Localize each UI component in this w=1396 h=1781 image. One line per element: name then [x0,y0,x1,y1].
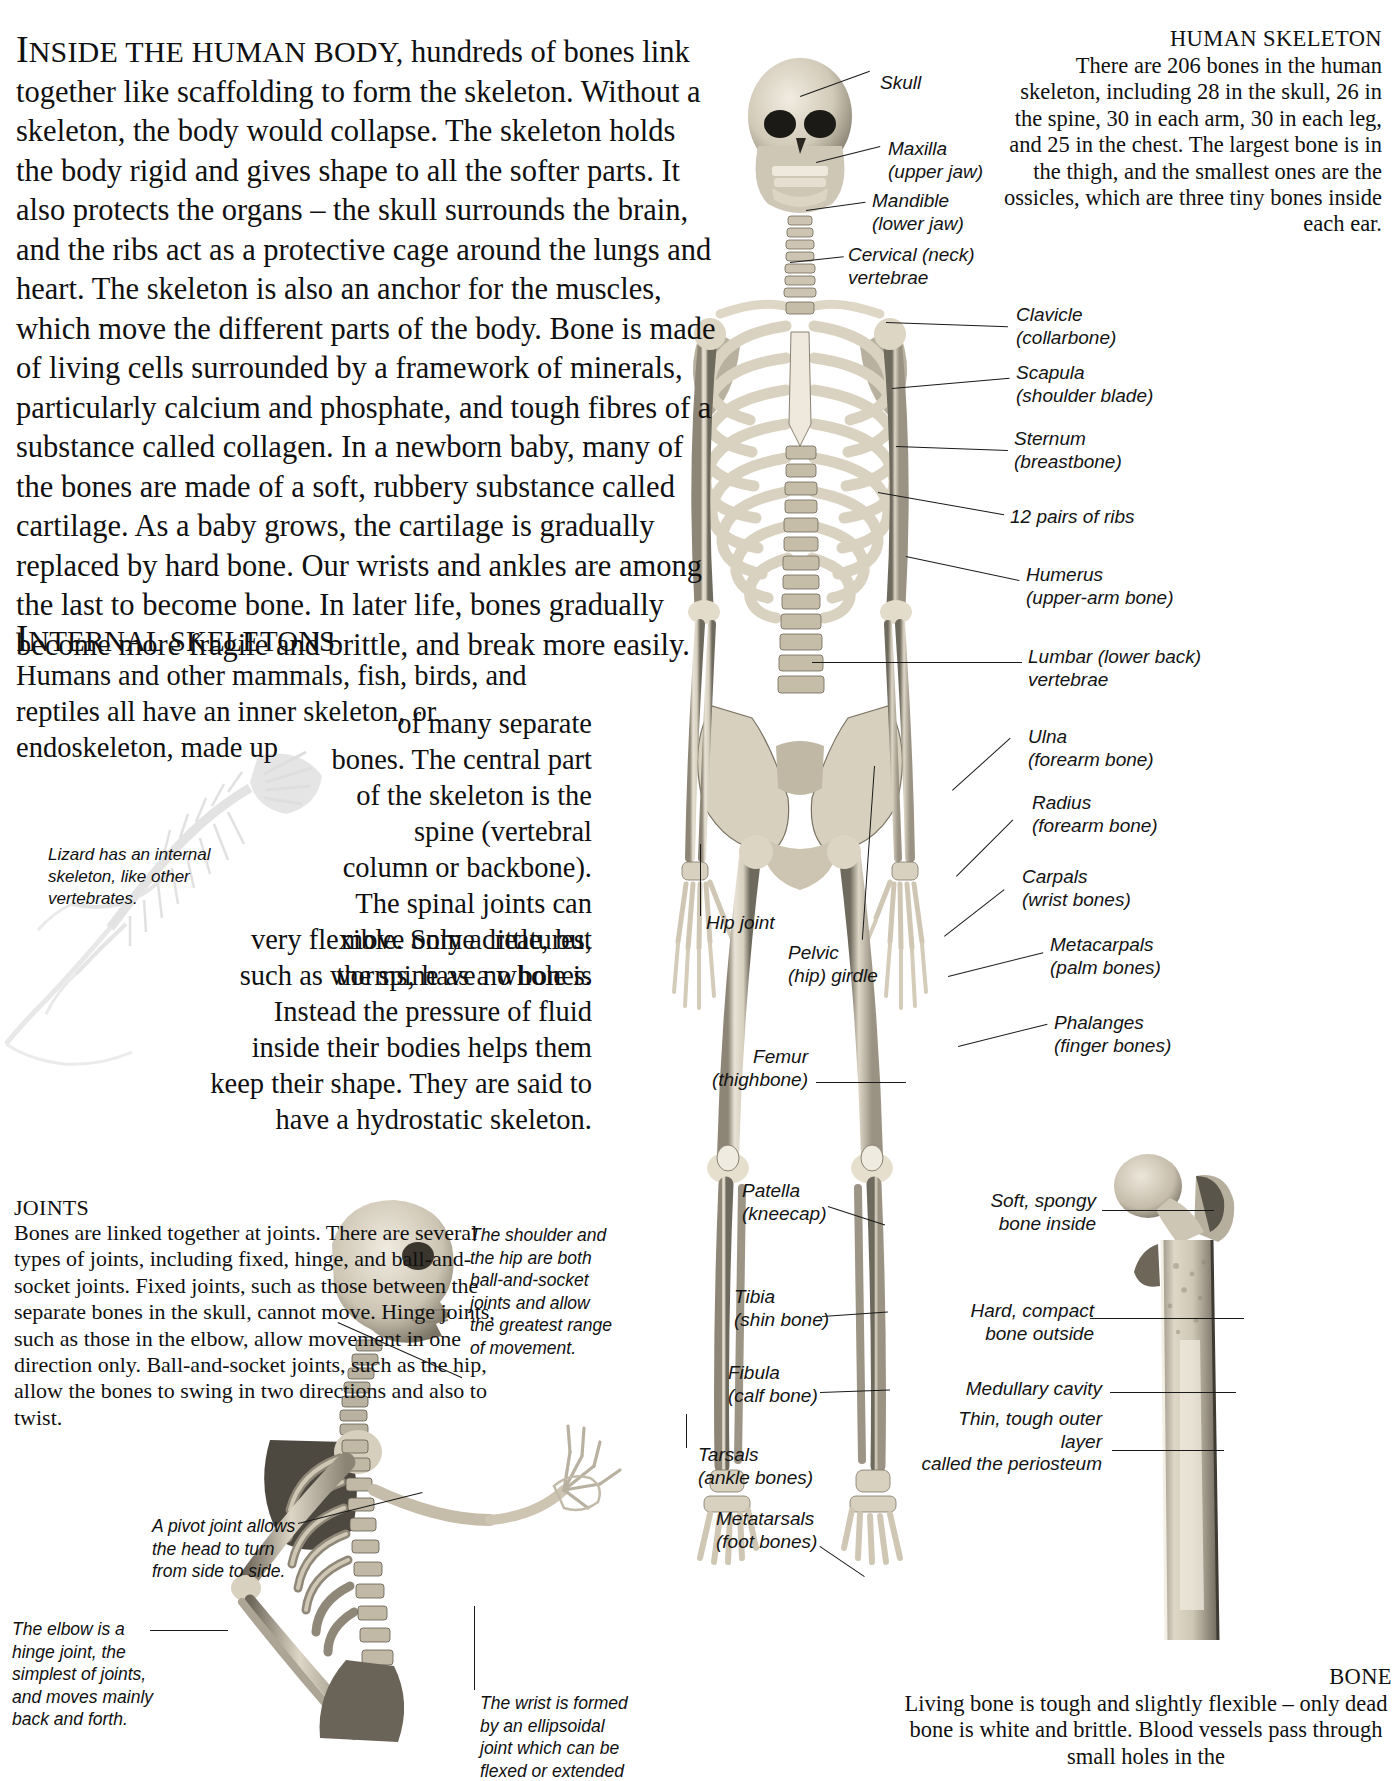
label-phalanges: Phalanges (finger bones) [1054,1012,1171,1057]
leader-line-elbow [150,1630,228,1631]
intro-body-text: hundreds of bones link together like sca… [16,35,716,662]
label-scapula: Scapula (shoulder blade) [1016,362,1153,407]
intro-paragraph: INSIDE THE HUMAN BODY, hundreds of bones… [16,30,716,665]
label-metatarsals: Metatarsals (foot bones) [716,1508,817,1553]
label-sternum: Sternum (breastbone) [1014,428,1122,473]
leader-line-lumbar [812,662,1022,663]
femur-cross-section-illustration [1100,1140,1260,1660]
bone-panel: BONE Living bone is tough and slightly f… [900,1664,1392,1770]
bone-panel-title: BONE [900,1664,1392,1690]
label-pelvic-girdle: Pelvic (hip) girdle [788,942,878,987]
leader-line-hip-joint [700,844,701,916]
human-skeleton-panel-title: HUMAN SKELETON [1000,26,1382,52]
human-skeleton-panel: HUMAN SKELETON There are 206 bones in th… [1000,26,1382,238]
label-mandible: Mandible (lower jaw) [872,190,964,235]
label-metacarpals: Metacarpals (palm bones) [1050,934,1161,979]
label-ribs: 12 pairs of ribs [1010,506,1135,529]
label-fibula: Fibula (calf bone) [728,1362,818,1407]
label-medullary-cavity: Medullary cavity [960,1378,1102,1401]
bone-panel-body: Living bone is tough and slightly flexib… [900,1691,1392,1770]
leader-line-spongy-bone [1102,1210,1214,1211]
leader-line-medullary-cavity [1110,1392,1236,1393]
leader-line-compact-bone [1090,1318,1244,1319]
internal-skeletons-heading: INTERNAL SKELETONS [16,622,335,658]
label-hip-joint: Hip joint [706,912,775,935]
label-radius: Radius (forearm bone) [1032,792,1158,837]
leader-line-wrist [474,1606,475,1690]
label-periosteum: Thin, tough outer layer called the perio… [918,1408,1102,1476]
joints-body: Bones are linked together at joints. The… [14,1220,519,1431]
lizard-caption: Lizard has an internal skeleton, like ot… [48,844,248,910]
annotation-pivot-joint: A pivot joint allows the head to turn fr… [152,1515,302,1583]
label-compact-bone: Hard, compact bone outside [958,1300,1094,1345]
label-femur: Femur (thighbone) [700,1046,808,1091]
drop-cap: I [16,28,29,70]
human-skeleton-panel-body: There are 206 bones in the human skeleto… [1000,53,1382,238]
leader-line-tarsals [686,1414,687,1448]
label-skull: Skull [880,72,921,95]
annotation-elbow-joint: The elbow is a hinge joint, the simplest… [12,1618,157,1731]
annotation-shoulder-joint: The shoulder and the hip are both ball-a… [470,1224,618,1359]
label-carpals: Carpals (wrist bones) [1022,866,1131,911]
label-cervical: Cervical (neck) vertebrae [848,244,975,289]
internal-heading-rest: NTERNAL SKELETONS [28,625,335,657]
internal-heading-capital: I [16,618,28,659]
label-ulna: Ulna (forearm bone) [1028,726,1154,771]
label-tarsals: Tarsals (ankle bones) [698,1444,813,1489]
internal-skeletons-wrap-bottom: very flexible. Some creatures, such as w… [200,922,592,1138]
leader-line-femur [816,1082,906,1083]
leader-line-periosteum [1112,1450,1224,1451]
label-tibia: Tibia (shin bone) [734,1286,829,1331]
label-maxilla: Maxilla (upper jaw) [888,138,983,183]
label-clavicle: Clavicle (collarbone) [1016,304,1116,349]
joints-heading: JOINTS [14,1195,89,1221]
annotation-wrist-joint: The wrist is formed by an ellipsoidal jo… [480,1692,640,1781]
label-patella: Patella (kneecap) [742,1180,827,1225]
label-lumbar: Lumbar (lower back) vertebrae [1028,646,1201,691]
label-spongy-bone: Soft, spongy bone inside [970,1190,1096,1235]
intro-small-caps: NSIDE THE HUMAN BODY, [29,35,404,68]
label-humerus: Humerus (upper-arm bone) [1026,564,1174,609]
